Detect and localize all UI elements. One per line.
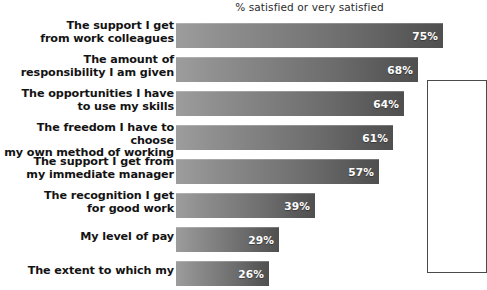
category-label-line1: The recognition I get [0,190,174,203]
bar-track: 75% [176,23,443,48]
bar-row: The extent to which my26% [0,258,443,290]
category-label-line1: The support I get from [0,156,174,169]
category-label: The support I get frommy immediate manag… [0,156,174,181]
bar-rows: The support I getfrom work colleagues75%… [0,20,443,290]
chart-title: % satisfied or very satisfied [176,1,443,13]
bar-track: 57% [176,159,443,184]
category-label-line1: The extent to which my [0,265,174,278]
category-label: The support I getfrom work colleagues [0,20,174,45]
bar-value-label: 39% [284,200,310,212]
category-label-line2: from work colleagues [0,33,174,46]
bar-row: The opportunities I haveto use my skills… [0,88,443,122]
bar-value-label: 64% [373,98,399,110]
bar[interactable]: 57% [176,159,379,184]
bar[interactable]: 29% [176,227,279,252]
bar-value-label: 26% [238,268,264,280]
bar-value-label: 75% [412,30,438,42]
bar-row: The freedom I have to choosemy own metho… [0,122,443,156]
category-label-line1: My level of pay [0,231,174,244]
bar[interactable]: 75% [176,23,443,48]
bar[interactable]: 64% [176,91,404,116]
bar-track: 64% [176,91,443,116]
bar[interactable]: 61% [176,125,393,150]
side-callout-box [427,80,487,273]
category-label-line1: The freedom I have to choose [0,122,174,147]
bar-track: 61% [176,125,443,150]
bar-row: The amount ofresponsibility I am given68… [0,54,443,88]
category-label-line1: The opportunities I have [0,88,174,101]
bar-value-label: 68% [387,64,413,76]
category-label-line2: to use my skills [0,101,174,114]
category-label-line2: responsibility I am given [0,67,174,80]
bar-row: The support I get frommy immediate manag… [0,156,443,190]
bar-row: My level of pay29% [0,224,443,258]
bar[interactable]: 68% [176,57,418,82]
category-label: The opportunities I haveto use my skills [0,88,174,113]
category-label: My level of pay [0,231,174,244]
category-label: The extent to which my [0,265,174,278]
category-label-line1: The support I get [0,20,174,33]
bar[interactable]: 39% [176,193,315,218]
category-label: The recognition I getfor good work [0,190,174,215]
bar-track: 29% [176,227,443,252]
category-label: The amount ofresponsibility I am given [0,54,174,79]
bar-value-label: 29% [248,234,274,246]
bar-row: The support I getfrom work colleagues75% [0,20,443,54]
category-label-line1: The amount of [0,54,174,67]
bar-row: The recognition I getfor good work39% [0,190,443,224]
bar-track: 39% [176,193,443,218]
bar-track: 26% [176,261,443,286]
bar[interactable]: 26% [176,261,269,286]
category-label-line2: for good work [0,203,174,216]
bar-value-label: 61% [362,132,388,144]
category-label-line2: my immediate manager [0,169,174,182]
bar-value-label: 57% [348,166,374,178]
bar-track: 68% [176,57,443,82]
